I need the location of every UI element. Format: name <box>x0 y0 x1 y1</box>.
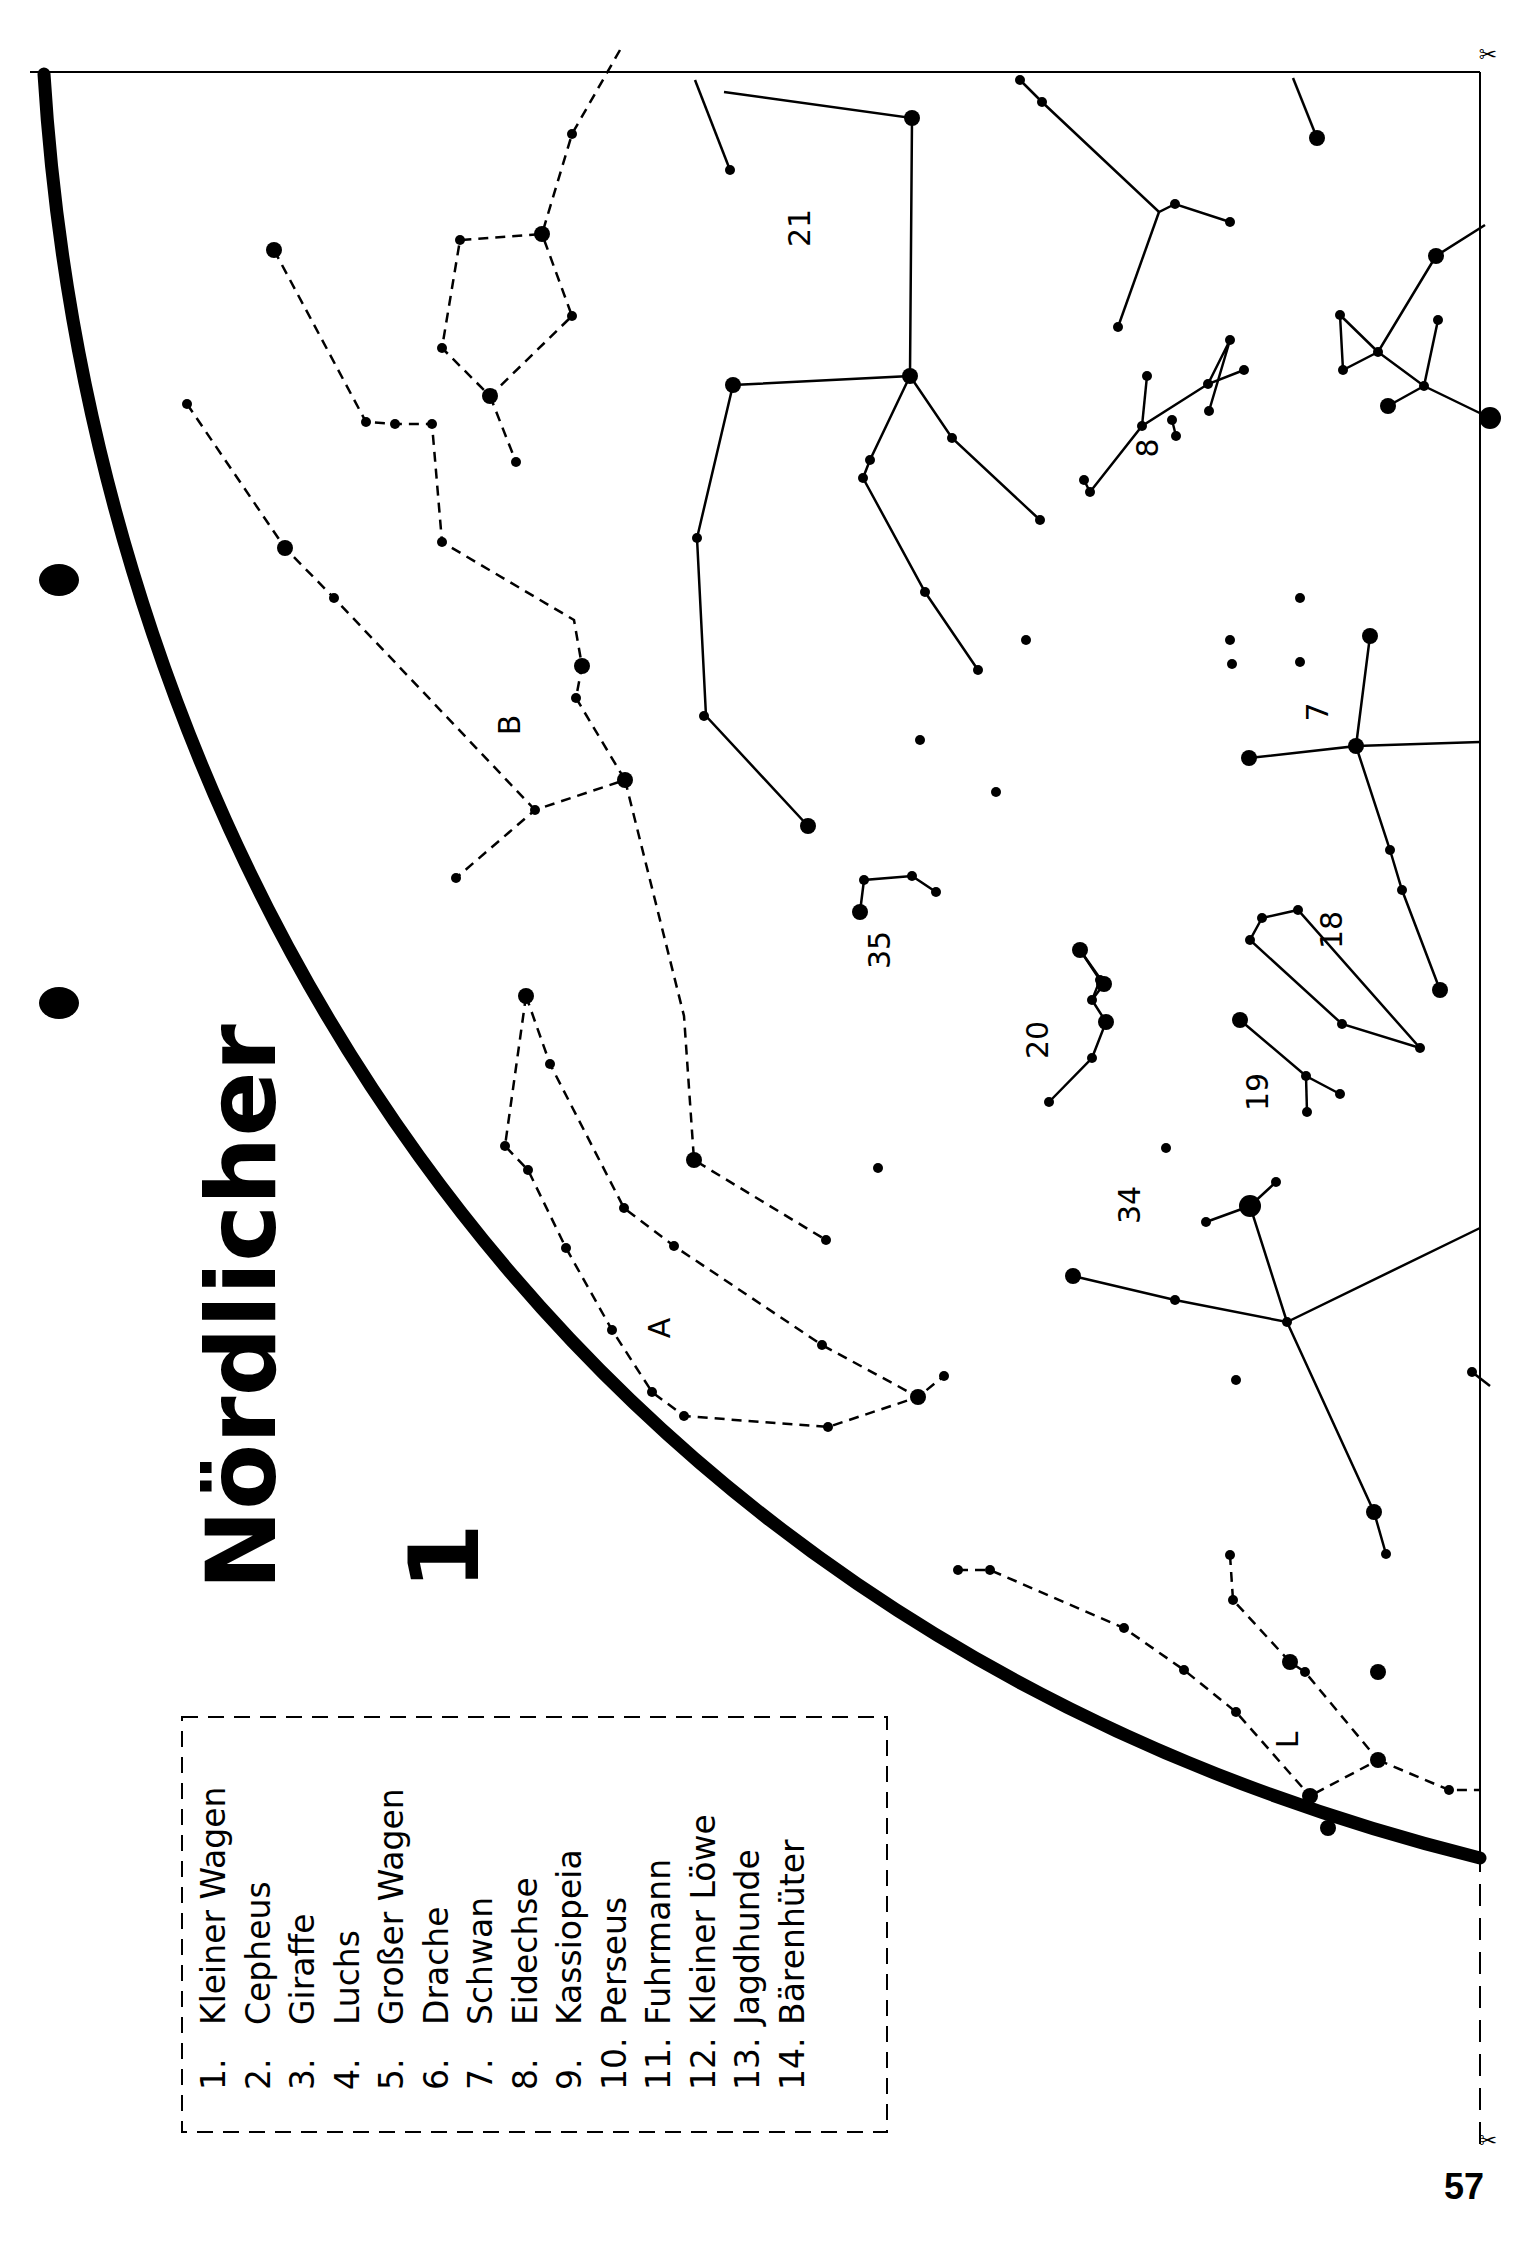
legend-item-name: Cepheus <box>239 1881 278 2025</box>
star-small <box>1227 659 1237 669</box>
star-small <box>1179 1665 1189 1675</box>
star-large <box>1428 248 1444 264</box>
star-small <box>947 433 957 443</box>
star-small <box>1137 421 1147 431</box>
legend-item-name: Kassiopeia <box>550 1849 589 2025</box>
dashed-line <box>274 250 625 878</box>
star-large <box>1309 130 1325 146</box>
dashed-line <box>490 396 516 462</box>
legend-item-number: 13. <box>728 2038 767 2090</box>
star-small <box>182 399 192 409</box>
star-large <box>1370 1752 1386 1768</box>
star-small <box>1225 217 1235 227</box>
legend-item-number: 6. <box>417 2059 456 2091</box>
star-small <box>1225 1550 1235 1560</box>
star-small <box>1338 365 1348 375</box>
star-small <box>437 343 447 353</box>
legend-item-name: Jagdhunde <box>728 1849 767 2027</box>
star-small <box>920 587 930 597</box>
star-small <box>1397 885 1407 895</box>
star-small <box>669 1241 679 1251</box>
worksheet-page: 21871835201934ABL ✂✂ Nördlicher 1 1.Klei… <box>0 0 1540 2242</box>
legend-item-name: Perseus <box>595 1897 634 2025</box>
star-small <box>873 1163 883 1173</box>
star-large <box>1320 1820 1336 1836</box>
star-small <box>500 1141 510 1151</box>
star-small <box>1337 1019 1347 1029</box>
star-small <box>561 1243 571 1253</box>
legend-item-name: Luchs <box>328 1930 367 2025</box>
title-block: Nördlicher <box>186 1023 298 1590</box>
legend-item-name: Fuhrmann <box>639 1859 678 2025</box>
star-small <box>1245 935 1255 945</box>
star-small <box>821 1235 831 1245</box>
star-small <box>1295 593 1305 603</box>
star-small <box>1271 1177 1281 1187</box>
constellation-label-B: B <box>492 715 527 736</box>
star-small <box>1204 406 1214 416</box>
constellation-label-A: A <box>642 1317 677 1338</box>
star-small <box>545 1059 555 1069</box>
legend-item-number: 4. <box>328 2059 367 2091</box>
star-small <box>1302 1107 1312 1117</box>
constellation-label-19: 19 <box>1240 1073 1275 1111</box>
star-small <box>1119 1623 1129 1633</box>
legend-item-number: 7. <box>461 2059 500 2091</box>
solid-line <box>1424 320 1438 386</box>
legend-item-number: 12. <box>684 2038 723 2090</box>
star-small <box>1239 365 1249 375</box>
star-small <box>699 711 709 721</box>
star-large <box>534 226 550 242</box>
star-large <box>902 368 918 384</box>
star-small <box>619 1203 629 1213</box>
star-small <box>511 457 521 467</box>
star-small <box>1335 1089 1345 1099</box>
star-small <box>1301 1071 1311 1081</box>
constellation-label-20: 20 <box>1020 1021 1055 1059</box>
legend-item-number: 1. <box>194 2059 233 2091</box>
star-bright <box>1479 407 1501 429</box>
dashed-line <box>526 996 944 1397</box>
star-large <box>910 1389 926 1405</box>
star-small <box>991 787 1001 797</box>
solid-line <box>1142 376 1147 426</box>
star-small <box>907 871 917 881</box>
star-bright <box>1239 1195 1261 1217</box>
hole-punch-icon <box>39 564 79 596</box>
star-small <box>817 1340 827 1350</box>
star-small <box>1079 475 1089 485</box>
legend-item-number: 5. <box>372 2059 411 2091</box>
solid-line <box>1306 1076 1307 1112</box>
star-small <box>1385 845 1395 855</box>
solid-line <box>1293 78 1317 138</box>
solid-line <box>697 92 912 826</box>
solid-line <box>910 376 1040 520</box>
map-labels: 21871835201934ABL <box>492 209 1349 1748</box>
star-large <box>1302 1788 1318 1804</box>
star-small <box>1282 1317 1292 1327</box>
legend-item-number: 11. <box>639 2038 678 2090</box>
star-small <box>915 735 925 745</box>
star-small <box>931 887 941 897</box>
star-large <box>1366 1504 1382 1520</box>
star-small <box>1201 1217 1211 1227</box>
dashed-line <box>625 780 826 1240</box>
star-large <box>482 388 498 404</box>
star-small <box>571 693 581 703</box>
star-small <box>859 875 869 885</box>
star-large <box>904 110 920 126</box>
solid-line <box>1340 315 1378 370</box>
star-large <box>1282 1654 1298 1670</box>
star-small <box>1167 415 1177 425</box>
star-small <box>865 455 875 465</box>
star-small <box>858 473 868 483</box>
star-small <box>647 1387 657 1397</box>
legend-item-name: Kleiner Löwe <box>684 1814 723 2025</box>
legend-item-number: 14. <box>773 2038 812 2090</box>
star-large <box>725 377 741 393</box>
star-large <box>277 540 293 556</box>
star-large <box>852 904 868 920</box>
star-small <box>1170 1295 1180 1305</box>
star-small <box>567 311 577 321</box>
star-small <box>679 1411 689 1421</box>
